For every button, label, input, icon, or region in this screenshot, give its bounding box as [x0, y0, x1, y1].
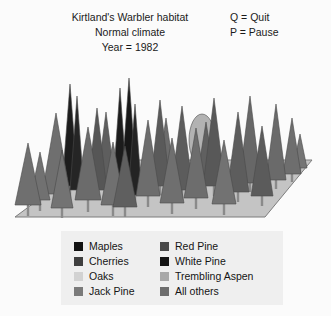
legend-column-right: Red Pine White Pine Trembling Aspen All … — [160, 239, 253, 299]
legend-label-all-others: All others — [175, 286, 219, 297]
swatch-white-pine — [160, 257, 169, 266]
legend-item-cherries: Cherries — [74, 254, 135, 268]
legend-item-oaks: Oaks — [74, 269, 135, 283]
title-line-climate: Normal climate — [40, 25, 220, 40]
legend-item-white-pine: White Pine — [160, 254, 253, 268]
simulation-title-block: Kirtland's Warbler habitat Normal climat… — [40, 10, 220, 55]
forest-scene-canvas — [0, 60, 331, 225]
title-line-habitat: Kirtland's Warbler habitat — [40, 10, 220, 25]
legend-item-maples: Maples — [74, 239, 135, 253]
swatch-jack-pine — [74, 287, 83, 296]
legend-label-oaks: Oaks — [89, 271, 114, 282]
kirtlands-warbler-habitat-view: Kirtland's Warbler habitat Normal climat… — [0, 0, 331, 316]
legend-item-all-others: All others — [160, 284, 253, 298]
legend-item-red-pine: Red Pine — [160, 239, 253, 253]
forest-scene — [0, 60, 331, 225]
legend-label-maples: Maples — [89, 241, 123, 252]
swatch-cherries — [74, 257, 83, 266]
legend-label-cherries: Cherries — [89, 256, 129, 267]
swatch-oaks — [74, 272, 83, 281]
title-line-year: Year = 1982 — [40, 40, 220, 55]
swatch-trembling-aspen — [160, 272, 169, 281]
legend-label-red-pine: Red Pine — [175, 241, 218, 252]
swatch-maples — [74, 242, 83, 251]
legend-label-white-pine: White Pine — [175, 256, 226, 267]
swatch-all-others — [160, 287, 169, 296]
species-legend: Maples Cherries Oaks Jack Pine Red Pine — [61, 231, 283, 305]
tree-crown-cone — [266, 104, 286, 180]
shortcut-pause: P = Pause — [230, 25, 330, 40]
legend-item-jack-pine: Jack Pine — [74, 284, 135, 298]
legend-label-trembling-aspen: Trembling Aspen — [175, 271, 253, 282]
swatch-red-pine — [160, 242, 169, 251]
legend-item-trembling-aspen: Trembling Aspen — [160, 269, 253, 283]
legend-label-jack-pine: Jack Pine — [89, 286, 135, 297]
keyboard-shortcuts-block: Q = Quit P = Pause — [230, 10, 330, 40]
shortcut-quit: Q = Quit — [230, 10, 330, 25]
legend-column-left: Maples Cherries Oaks Jack Pine — [74, 239, 135, 299]
